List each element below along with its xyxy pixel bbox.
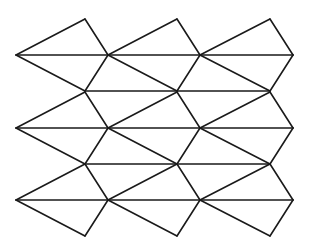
kite-upper-right-edge [85,92,108,128]
kite-upper-right-edge [177,19,200,55]
kite-lower-right-edge [177,200,200,236]
kite-lower-right-edge [85,200,108,236]
kite-upper-left-edge [16,92,85,128]
kite-upper-left-edge [108,19,177,55]
kite-upper-right-edge [270,19,293,55]
kite-upper-left-edge [200,164,270,200]
kite-upper-left-edge [200,92,270,128]
kite-lower-right-edge [270,55,293,91]
kite-lower-right-edge [85,55,108,91]
kite-lower-right-edge [177,128,200,164]
kite-upper-left-edge [108,164,177,200]
kite-upper-right-edge [177,164,200,200]
kite-upper-right-edge [177,92,200,128]
kite-lower-left-edge [16,55,85,91]
kite-lower-left-edge [108,128,177,164]
kite-lower-left-edge [200,55,270,91]
tessellation-canvas [0,0,310,247]
kite-lower-left-edge [108,200,177,236]
kite-lower-left-edge [200,200,270,236]
kite-upper-left-edge [16,164,85,200]
kite-upper-left-edge [200,19,270,55]
kite-upper-left-edge [16,19,85,55]
kite-upper-left-edge [108,92,177,128]
kite-lower-right-edge [270,200,293,236]
kite-lower-right-edge [177,55,200,91]
kite-lower-right-edge [270,128,293,164]
kite-lower-right-edge [85,128,108,164]
kite-lower-left-edge [16,128,85,164]
kite-upper-right-edge [270,92,293,128]
kite-upper-right-edge [85,19,108,55]
kite-lower-left-edge [16,200,85,236]
kite-lower-left-edge [200,128,270,164]
kite-lower-left-edge [108,55,177,91]
tessellation-diagram [0,0,310,247]
kite-upper-right-edge [270,164,293,200]
kite-upper-right-edge [85,164,108,200]
